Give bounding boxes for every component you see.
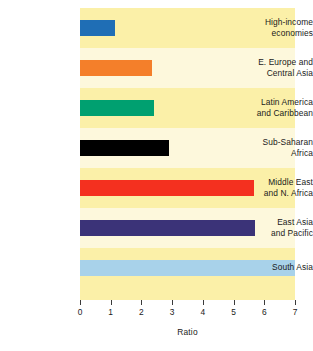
- y-axis-label-line: Sub-Saharan: [239, 137, 313, 148]
- y-axis-label-line: High-income: [239, 17, 313, 28]
- y-axis-label-line: Middle East: [239, 177, 313, 188]
- y-axis-label: Middle Eastand N. Africa: [239, 177, 313, 198]
- x-axis-tick-mark: [264, 300, 265, 305]
- y-axis-label-line: Latin America: [239, 97, 313, 108]
- y-axis-label: E. Europe andCentral Asia: [239, 57, 313, 78]
- bar: [80, 60, 152, 76]
- bar: [80, 100, 154, 116]
- x-axis-tick-mark: [172, 300, 173, 305]
- x-axis-tick-mark: [234, 300, 235, 305]
- x-axis-tick-label: 5: [224, 307, 244, 317]
- x-axis-tick-label: 7: [285, 307, 305, 317]
- x-axis-tick-mark: [111, 300, 112, 305]
- y-axis-label-line: economies: [239, 28, 313, 39]
- y-axis-label-line: East Asia: [239, 217, 313, 228]
- y-axis-label-line: E. Europe and: [239, 57, 313, 68]
- y-axis-label: High-incomeeconomies: [239, 17, 313, 38]
- y-axis-label-line: Central Asia: [239, 68, 313, 79]
- x-axis-tick-label: 1: [101, 307, 121, 317]
- y-axis-label-line: and Pacific: [239, 228, 313, 239]
- x-axis-tick-label: 2: [131, 307, 151, 317]
- x-axis-tick-mark: [295, 300, 296, 305]
- y-axis-label-line: and N. Africa: [239, 188, 313, 199]
- bar-chart: High-incomeeconomiesE. Europe andCentral…: [0, 0, 313, 351]
- x-axis-tick-mark: [141, 300, 142, 305]
- x-axis-tick-mark: [203, 300, 204, 305]
- x-axis-tick-label: 6: [254, 307, 274, 317]
- y-axis-label: East Asiaand Pacific: [239, 217, 313, 238]
- y-axis-label-line: South Asia: [239, 262, 313, 273]
- x-axis-tick-label: 0: [70, 307, 90, 317]
- bar: [80, 220, 255, 236]
- y-axis-label: South Asia: [239, 262, 313, 273]
- x-axis: 01234567: [80, 300, 295, 330]
- x-axis-tick-label: 4: [193, 307, 213, 317]
- bar: [80, 20, 115, 36]
- bar: [80, 140, 169, 156]
- x-axis-tick-mark: [80, 300, 81, 305]
- y-axis-label-line: and Caribbean: [239, 108, 313, 119]
- x-axis-tick-label: 3: [162, 307, 182, 317]
- y-axis-label-line: Africa: [239, 148, 313, 159]
- x-axis-title: Ratio: [80, 327, 295, 337]
- y-axis-label: Sub-SaharanAfrica: [239, 137, 313, 158]
- plot-band: [80, 288, 295, 300]
- bar: [80, 180, 254, 196]
- y-axis-label: Latin Americaand Caribbean: [239, 97, 313, 118]
